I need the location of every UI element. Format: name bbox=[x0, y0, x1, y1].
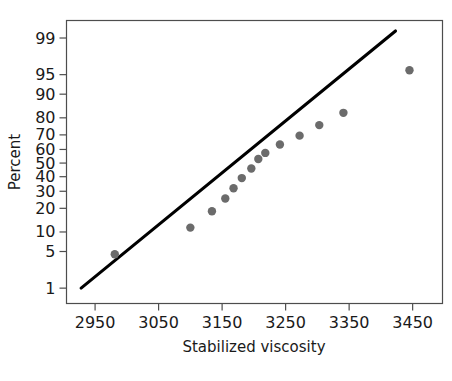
plot-frame bbox=[67, 21, 443, 304]
data-point bbox=[229, 184, 237, 192]
x-axis-tick-label: 2950 bbox=[75, 313, 116, 332]
data-point bbox=[315, 121, 323, 129]
y-axis-tick-label: 90 bbox=[35, 85, 55, 104]
data-point bbox=[295, 131, 303, 139]
fit-line bbox=[81, 31, 395, 288]
data-point bbox=[238, 174, 246, 182]
y-axis-title: Percent bbox=[6, 134, 24, 191]
x-axis-tick-label: 3350 bbox=[329, 313, 370, 332]
data-point bbox=[276, 140, 284, 148]
y-axis-tick-label: 5 bbox=[45, 242, 55, 261]
probability-plot-svg: 151020304050607080909599 295030503150325… bbox=[0, 0, 452, 381]
data-point bbox=[247, 164, 255, 172]
y-axis-tick-label: 99 bbox=[35, 29, 55, 48]
x-axis-tick-label: 3250 bbox=[265, 313, 306, 332]
data-point bbox=[405, 66, 413, 74]
y-axis-tick-label: 1 bbox=[45, 279, 55, 298]
data-point bbox=[254, 155, 262, 163]
data-point bbox=[186, 223, 194, 231]
data-points-group bbox=[111, 66, 414, 258]
x-axis-tick-label: 3450 bbox=[392, 313, 433, 332]
y-axis-tick-group: 151020304050607080909599 bbox=[35, 29, 66, 298]
y-axis-tick-label: 10 bbox=[35, 222, 55, 241]
data-point bbox=[111, 250, 119, 258]
y-axis-tick-label: 80 bbox=[35, 108, 55, 127]
x-axis-tick-group: 295030503150325033503450 bbox=[75, 304, 433, 332]
y-axis-tick-label: 20 bbox=[35, 199, 55, 218]
data-point bbox=[208, 207, 216, 215]
y-axis-tick-label: 95 bbox=[35, 65, 55, 84]
data-point bbox=[221, 194, 229, 202]
data-point bbox=[339, 109, 347, 117]
probability-plot-figure: 151020304050607080909599 295030503150325… bbox=[0, 0, 452, 381]
data-point bbox=[261, 149, 269, 157]
x-axis-tick-label: 3150 bbox=[202, 313, 243, 332]
y-axis-tick-label: 70 bbox=[35, 125, 55, 144]
x-axis-tick-label: 3050 bbox=[138, 313, 179, 332]
x-axis-title: Stabilized viscosity bbox=[182, 338, 325, 356]
